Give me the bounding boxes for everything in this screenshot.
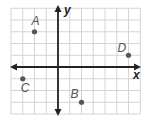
point-label-d: D — [118, 41, 127, 55]
x-axis-label: x — [132, 68, 141, 82]
point-label-c: C — [21, 81, 30, 95]
y-axis-label: y — [63, 3, 72, 17]
points: ABCD — [20, 14, 131, 105]
point-label-b: B — [71, 87, 79, 101]
point-label-a: A — [31, 14, 40, 28]
y-axis-down-arrow-icon — [55, 109, 62, 116]
point-b — [79, 100, 84, 105]
point-d — [126, 53, 131, 58]
coordinate-plane: y x ABCD — [0, 0, 149, 123]
point-a — [32, 29, 37, 34]
